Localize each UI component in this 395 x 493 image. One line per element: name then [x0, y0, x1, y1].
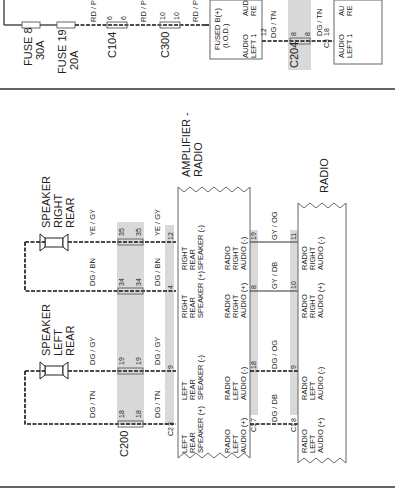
speaker-icon: [45, 238, 63, 247]
module-a-label: (I.O.D.): [221, 23, 230, 48]
pin-number: 8: [304, 32, 311, 36]
svg-text:AUDIO (+): AUDIO (+): [316, 417, 325, 453]
wire-color-label: DG / GY: [153, 337, 162, 365]
wire-color-label: RD / PK: [139, 0, 148, 22]
svg-text:REAR: REAR: [64, 325, 76, 356]
module-b-audio-label: RE: [345, 6, 354, 16]
pin-number: 8: [290, 418, 297, 422]
radio-connector-shade: [290, 230, 298, 415]
wire-color-label: YE / GY: [88, 209, 97, 236]
amplifier-radio-box: [178, 187, 250, 458]
svg-text:AUDIO (+): AUDIO (+): [239, 417, 248, 453]
svg-text:SPEAKER (+): SPEAKER (+): [196, 271, 205, 318]
pin-number: 34: [135, 278, 142, 286]
fuse-19-rating: 20A: [68, 50, 80, 70]
pin-number: 18: [135, 410, 142, 418]
amp-audio-labels: RADIO RIGHT AUDIO (-) RADIO RIGHT AUDIO …: [223, 236, 248, 453]
pin-number: 18: [250, 361, 257, 369]
amp-speaker-labels: RIGHT REAR SPEAKER (-) RIGHT REAR SPEAKE…: [180, 224, 205, 453]
svg-text:AUDIO (-): AUDIO (-): [316, 236, 325, 270]
pin-number: 35: [135, 228, 142, 236]
pin-number: 19: [250, 232, 257, 240]
speaker-icon: [45, 366, 63, 375]
wire-color-label: GY / OG: [270, 211, 279, 240]
svg-text:SPEAKER (-): SPEAKER (-): [196, 224, 205, 270]
module-a-audio-label: LEFT 1: [249, 34, 258, 58]
pin-number: 10: [159, 12, 166, 20]
wire-color-label: DG / TN: [269, 11, 278, 38]
module-a-audio-label: RE: [249, 6, 258, 16]
svg-text:AUDIO (+): AUDIO (+): [239, 282, 248, 318]
fuse-19-label: FUSE 19: [56, 29, 68, 74]
fuse-8-rating: 30A: [34, 40, 46, 60]
svg-text:AUDIO (-): AUDIO (-): [239, 236, 248, 270]
wire-color-label: DG / BN: [153, 258, 162, 286]
fuse-8-icon: [22, 22, 40, 28]
connector-label: C3: [323, 39, 330, 48]
wire-color-label: DG / GY: [88, 337, 97, 365]
svg-text:SPEAKER: SPEAKER: [40, 304, 52, 356]
wire-color-label: GY / DB: [270, 262, 279, 289]
connector-c300-label: C300: [159, 32, 171, 58]
pin-number: 18: [323, 28, 330, 36]
svg-text:AUDIO (+): AUDIO (+): [316, 282, 325, 318]
connector-c200-shade: [117, 222, 144, 425]
pin-number: 11: [290, 233, 297, 240]
connector-c2-shade: [165, 225, 174, 425]
radio-title: RADIO: [318, 158, 330, 193]
wiring-diagram: FUSE 8 30A FUSE 19 20A RD / PK RD / PK R…: [0, 0, 395, 493]
connector-c200-label: C200: [118, 431, 130, 457]
speaker-right-rear: SPEAKER RIGHT REAR: [40, 176, 76, 251]
connector-c2-label: C2: [167, 427, 174, 436]
module-b-audio-label: LEFT 1: [345, 34, 354, 58]
connector-c1-shade: [250, 230, 258, 415]
main-section: SPEAKER RIGHT REAR SPEAKER LEFT REAR YE …: [25, 112, 346, 463]
wire-color-label: YE / GY: [153, 209, 162, 236]
wire-color-label: DG / TN: [88, 391, 97, 418]
amplifier-title: AMPLIFIER -: [180, 112, 192, 177]
fuse-8-label: FUSE 8: [22, 27, 34, 66]
pin-number: 9: [290, 365, 297, 369]
pin-number: 18: [118, 410, 125, 418]
pin-number: 35: [118, 228, 125, 236]
pin-number: 9: [167, 365, 174, 369]
pin-number: 10: [173, 12, 180, 20]
pin-number: 19: [135, 357, 142, 365]
pin-number: 10: [290, 281, 297, 289]
fuse-19-icon: [57, 22, 75, 28]
wire-color-label: RD / PK: [89, 0, 98, 22]
svg-text:AUDIO (-): AUDIO (-): [316, 366, 325, 400]
amplifier-title: RADIO: [192, 142, 204, 177]
connector-c104-label: C104: [106, 32, 118, 58]
wire-color-label: DG / DB: [270, 394, 279, 422]
svg-text:LEFT: LEFT: [52, 329, 64, 356]
wire-color-label: DG / OG: [270, 340, 279, 369]
pin-number: 3: [167, 422, 174, 426]
radio-connector-label: C1: [290, 423, 297, 432]
svg-text:SPEAKER: SPEAKER: [40, 176, 52, 228]
wire-color-label: DG / BN: [88, 258, 97, 286]
svg-text:AUDIO (-): AUDIO (-): [239, 366, 248, 400]
wire-color-label: DG / TN: [153, 391, 162, 418]
svg-text:REAR: REAR: [64, 197, 76, 228]
pin-number: 8: [250, 285, 257, 289]
connector-c204-label: C204: [288, 42, 300, 68]
pin-number: 34: [118, 278, 125, 286]
pin-number: 6: [106, 16, 113, 20]
pin-number: 4: [167, 285, 174, 289]
top-section: FUSE 8 30A FUSE 19 20A RD / PK RD / PK R…: [4, 0, 382, 74]
pin-number: 7: [250, 418, 257, 422]
pin-number: 8: [290, 32, 297, 36]
pin-number: 12: [260, 28, 267, 36]
pin-number: 12: [167, 232, 174, 240]
speaker-left-rear: SPEAKER LEFT REAR: [40, 304, 76, 379]
svg-text:SPEAKER (+): SPEAKER (+): [196, 406, 205, 453]
pin-number: 6: [120, 16, 127, 20]
svg-text:SPEAKER (-): SPEAKER (-): [196, 354, 205, 400]
connector-c1-label: C1: [250, 423, 257, 432]
wire-color-label: RD / PK: [191, 0, 200, 22]
svg-text:RIGHT: RIGHT: [52, 194, 64, 229]
radio-labels: RADIO RIGHT AUDIO (-) RADIO RIGHT AUDIO …: [300, 236, 325, 453]
pin-number: 19: [118, 357, 125, 365]
